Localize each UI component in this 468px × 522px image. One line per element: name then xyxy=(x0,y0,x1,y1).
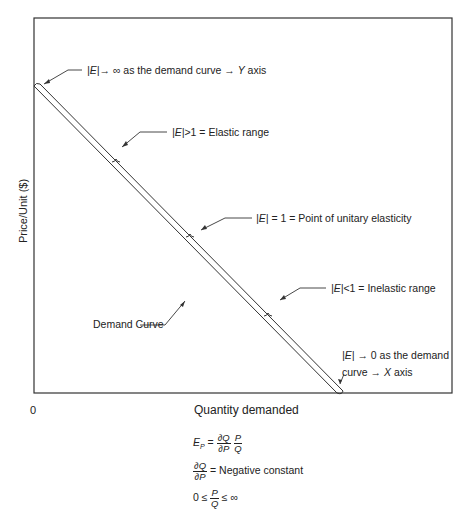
leader-elastic xyxy=(122,132,167,147)
origin-label: 0 xyxy=(30,404,36,416)
demand-curve-label: Demand Curve xyxy=(93,318,164,330)
annotation-elastic: |E|>1 = Elastic range xyxy=(172,126,269,138)
x-axis-label: Quantity demanded xyxy=(194,403,299,417)
formula-elasticity: EP = ∂Q∂P PQ xyxy=(193,433,242,454)
annotation-zero: |E| → 0 as the demand curve → X axis xyxy=(342,347,449,381)
formula-slope: ∂Q∂P = Negative constant xyxy=(193,461,303,482)
arrow-icon xyxy=(44,79,50,84)
annotation-infinite: |E|→ ∞ as the demand curve → Y axis xyxy=(87,64,266,76)
leader-inelastic xyxy=(280,288,326,300)
y-axis-label: Price/Unit ($) xyxy=(17,166,29,256)
annotation-inelastic: |E|<1 = Inelastic range xyxy=(331,282,436,294)
annotation-unitary: |E| = 1 = Point of unitary elasticity xyxy=(256,212,411,224)
formula-ratio-range: 0 ≤ PQ ≤ ∞ xyxy=(193,488,238,509)
leader-unitary xyxy=(201,218,252,230)
